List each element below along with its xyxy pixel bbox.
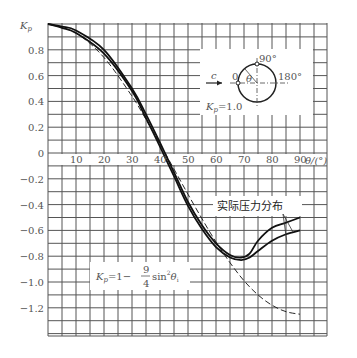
- oneeighty-angle-label: 180°: [278, 71, 302, 82]
- inset-diagram: c 0 90° 180° θ Kp=1.0: [200, 49, 313, 115]
- formula-denominator: 4: [143, 278, 149, 289]
- y-axis-label: Kp: [19, 20, 32, 33]
- y-tick-label: 0.6: [28, 71, 44, 82]
- ninety-angle-label: 90°: [259, 53, 277, 64]
- y-tick-label: −1.0: [20, 277, 44, 288]
- zero-angle-label: 0: [232, 71, 238, 82]
- y-tick-label: −0.6: [20, 225, 44, 236]
- formula-numerator: 9: [143, 264, 149, 275]
- x-tick-label: 20: [98, 154, 111, 165]
- x-tick-label: 10: [70, 154, 83, 165]
- y-tick-label: −0.8: [20, 251, 44, 262]
- x-tick-label: 50: [182, 154, 195, 165]
- formula-rhs: sin2θi: [152, 269, 179, 283]
- y-tick-label: −0.4: [20, 200, 44, 211]
- formula-annotation: Kp=1− 9 4 sin2θi: [90, 262, 190, 290]
- y-tick-label: −0.2: [20, 174, 44, 185]
- theta-label: θ: [246, 73, 252, 84]
- x-tick-label: 70: [238, 154, 251, 165]
- y-tick-label: 0: [38, 148, 44, 159]
- x-tick-label: 60: [210, 154, 223, 165]
- actual-distribution-label: 实际压力分布: [217, 199, 283, 213]
- y-tick-label: −1.2: [20, 303, 44, 314]
- y-tick-label: 0.8: [28, 45, 44, 56]
- x-tick-label: 40: [154, 154, 167, 165]
- pressure-coefficient-chart: c 0 90° 180° θ Kp=1.0 实际压力分布 Kp=1− 9 4 s…: [0, 0, 357, 358]
- y-tick-label: 0.4: [28, 96, 44, 107]
- flow-label: c: [211, 70, 217, 81]
- x-tick-label: 30: [126, 154, 139, 165]
- y-tick-label: 0.2: [28, 122, 44, 133]
- x-tick-label: 80: [266, 154, 279, 165]
- x-axis-label: θ/(°): [305, 155, 327, 166]
